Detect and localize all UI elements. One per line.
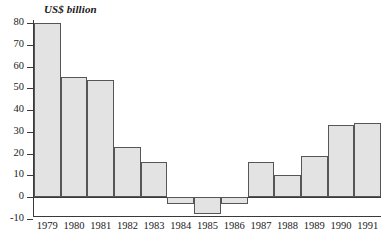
bar: [87, 80, 114, 197]
y-axis-tick: [27, 197, 33, 198]
plot-area: [34, 20, 381, 216]
x-axis-tick-label: 1990: [328, 221, 355, 232]
bar: [141, 162, 168, 197]
x-axis-tick-label: 1985: [194, 221, 221, 232]
y-axis-tick-label: 20: [14, 148, 25, 159]
x-axis-line: [33, 216, 381, 217]
y-axis-tick: [27, 110, 33, 111]
x-axis-tick-label: 1986: [221, 221, 248, 232]
y-axis-tick-label: 70: [14, 39, 25, 50]
y-axis-tick-label: 0: [19, 191, 24, 202]
y-axis-tick: [27, 45, 33, 46]
x-axis-tick-label: 1987: [248, 221, 275, 232]
x-axis-labels: 1979198019811982198319841985198619871988…: [33, 221, 381, 239]
bar: [194, 197, 221, 214]
x-axis-tick-label: 1984: [167, 221, 194, 232]
bar: [114, 147, 141, 197]
x-axis-tick-label: 1991: [354, 221, 381, 232]
bar: [354, 123, 381, 197]
y-axis-title: US$ billion: [44, 3, 97, 15]
x-axis-tick-label: 1979: [34, 221, 61, 232]
y-axis-tick-label: -10: [10, 213, 24, 224]
y-axis-tick: [27, 219, 33, 220]
y-axis-tick: [27, 67, 33, 68]
bar: [61, 77, 88, 197]
bar: [328, 125, 355, 197]
y-axis-tick-label: 60: [14, 61, 25, 72]
bar: [274, 175, 301, 197]
y-axis-tick: [27, 88, 33, 89]
x-axis-tick-label: 1989: [301, 221, 328, 232]
bar: [34, 23, 61, 197]
y-axis-tick-label: 30: [14, 126, 25, 137]
bar: [221, 197, 248, 204]
x-axis-tick-label: 1988: [274, 221, 301, 232]
y-axis-tick-label: 50: [14, 82, 25, 93]
x-axis-tick-label: 1982: [114, 221, 141, 232]
y-axis-tick: [27, 132, 33, 133]
y-axis-tick: [27, 154, 33, 155]
y-axis-tick-label: 40: [14, 104, 25, 115]
x-axis-tick-label: 1981: [87, 221, 114, 232]
y-axis-tick: [27, 175, 33, 176]
x-axis-tick-label: 1983: [141, 221, 168, 232]
bar: [248, 162, 275, 197]
y-axis-tick-label: 80: [14, 17, 25, 28]
y-axis-tick: [27, 23, 33, 24]
bar-chart: US$ billion 80706050403020100-10 1979198…: [0, 0, 383, 245]
x-axis-tick-label: 1980: [61, 221, 88, 232]
bar: [301, 156, 328, 197]
y-axis-tick-label: 10: [14, 169, 25, 180]
bar: [167, 197, 194, 204]
